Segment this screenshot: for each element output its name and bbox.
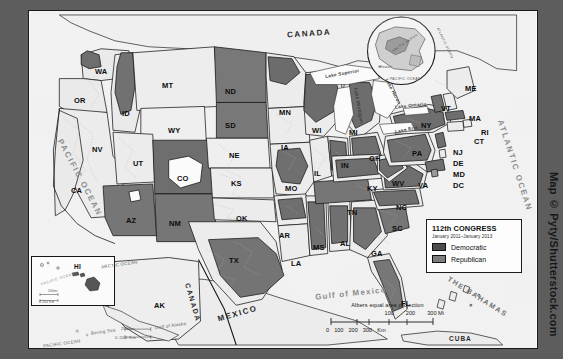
map-scalebar: Albers equal area projection 100 200 300… [325, 302, 450, 333]
state-DE [439, 149, 446, 158]
state-OK [212, 198, 276, 222]
scalebar-graphic [329, 317, 441, 326]
state-KY-rep [336, 158, 380, 178]
hawaii-inset-graphic [32, 257, 115, 306]
km-tick-100: 100 [334, 327, 343, 333]
state-AZ-inner [129, 190, 141, 202]
mi-tick-300: 300 Mi [427, 310, 444, 316]
scalebar-km-ticks: 0 100 200 300 Km [325, 327, 450, 333]
state-RI [463, 119, 472, 127]
mi-tick-100: 100 [385, 310, 394, 316]
map-legend: 112th CONGRESS January 2011–January 2013… [426, 219, 522, 273]
state-UT [113, 132, 155, 184]
projection-label: Albers equal area projection [325, 302, 450, 308]
watermark-credit: Map © Pyty/Shutterstock.com [548, 172, 560, 337]
state-SD [216, 102, 268, 138]
bahamas-isl-5 [470, 304, 472, 306]
republican-swatch [432, 255, 446, 263]
globe-label-arctic-ocean: ARCTIC OCEAN [391, 33, 418, 53]
map-canvas: CANADA MEXICO CANADA CUBA THE BAHAMAS PA… [28, 10, 538, 349]
km-tick-300: 300 [363, 327, 372, 333]
globe-label-atlantic-ocean: ATLANTIC OCEAN [436, 27, 454, 59]
km-tick-0: 0 [326, 327, 329, 333]
congress-map-figure: CANADA MEXICO CANADA CUBA THE BAHAMAS PA… [0, 0, 563, 359]
globe-label-pacific-ocean: PACIFIC OCEAN [390, 77, 421, 81]
democratic-swatch [432, 243, 446, 251]
frame-band-top [0, 0, 563, 10]
state-MT [133, 47, 218, 111]
frame-band-bottom [0, 349, 563, 359]
legend-label-republican: Republican [451, 256, 486, 263]
state-KS [210, 168, 274, 198]
state-MA [445, 110, 465, 120]
state-NE [206, 138, 270, 168]
scalebar-miles-ticks: 100 200 300 Mi [325, 310, 450, 316]
mi-tick-200: 200 [406, 310, 415, 316]
globe-inset: ARCTIC OCEAN ATLANTIC OCEAN PACIFIC OCEA… [368, 15, 454, 93]
state-AL-rep [330, 206, 348, 244]
legend-row-republican[interactable]: Republican [432, 255, 516, 263]
legend-row-democratic[interactable]: Democratic [432, 243, 516, 251]
state-TN [314, 178, 372, 204]
bahamas-isl-4 [478, 294, 480, 296]
state-ND [214, 47, 266, 103]
globe-label-hawaii: Hawaii [380, 65, 392, 69]
state-IA [268, 106, 310, 144]
state-CT [447, 121, 464, 131]
km-unit: Km [377, 327, 385, 333]
legend-title: 112th CONGRESS [432, 224, 516, 233]
hawaii-inset: HI PACIFIC OCEAN 200mi 0 200 Km [31, 256, 115, 306]
frame-band-left [0, 0, 28, 359]
state-NC-rep [373, 190, 419, 206]
state-AR-rep [278, 198, 306, 220]
legend-label-democratic: Democratic [451, 244, 486, 251]
km-tick-200: 200 [348, 327, 357, 333]
legend-subtitle: January 2011–January 2013 [432, 234, 516, 239]
state-DC [431, 169, 438, 177]
state-LA [278, 224, 310, 262]
